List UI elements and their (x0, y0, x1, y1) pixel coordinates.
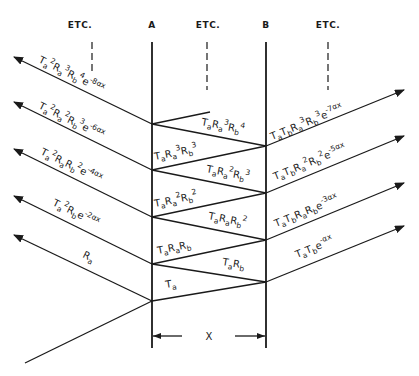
interface-a-label: A (148, 20, 155, 30)
transmitted-label-1: TaTbe-αx (292, 232, 337, 263)
header-labels: ETC. A ETC. B ETC. (68, 20, 340, 30)
etc-right-label: ETC. (316, 20, 340, 30)
internal-zigzag (152, 112, 266, 301)
reflected-label-6: Ta2Ra2Rb3e-6αx (35, 97, 108, 144)
internal-label-5: TaRaRb2 (206, 207, 249, 231)
transmitted-label-5: TaTbRa2Rb2e-5αx (270, 140, 350, 185)
multiple-reflection-diagram: ETC. A ETC. B ETC. X (0, 0, 419, 376)
reflected-ray-ra (14, 235, 152, 301)
internal-rays (152, 112, 266, 301)
dimension-label: X (206, 331, 213, 342)
reflected-ray-8 (14, 57, 152, 124)
transmitted-label-7: TaTbRa3Rb3e-7αx (267, 100, 347, 145)
transmitted-label-3: TaTbRaRbe-3αx (271, 190, 342, 232)
reflected-label-ra: Ra (80, 249, 97, 267)
incident-ray (25, 301, 152, 363)
transmitted-labels: TaTbRa3Rb3e-7αx TaTbRa2Rb2e-5αx TaTbRaRb… (267, 100, 350, 263)
reflected-rays (14, 57, 152, 301)
interface-b-label: B (262, 20, 269, 30)
internal-label-7: TaRb (220, 256, 246, 274)
transmitted-rays (266, 90, 404, 282)
reflected-labels: Ta2Ra3Rb4e-8αx Ta2Ra2Rb3e-6αx Ta2RaRb2e-… (35, 51, 108, 267)
transmitted-ray-7 (266, 90, 404, 146)
reflected-label-8: Ta2Ra3Rb4e-8αx (35, 51, 108, 98)
transmitted-ray-3 (266, 183, 404, 240)
etc-left-label: ETC. (68, 20, 92, 30)
transmitted-ray-1 (266, 226, 404, 282)
dimension-x: X (153, 331, 265, 342)
internal-label-8: Ta (164, 277, 178, 293)
etc-middle-label: ETC. (196, 20, 220, 30)
